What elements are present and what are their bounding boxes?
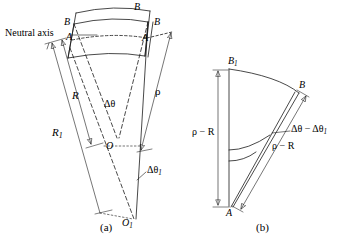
label-rho-minus-R-right: ρ − R <box>272 141 294 151</box>
label-B1: B1 <box>228 56 238 68</box>
angle-arc-secondary <box>229 152 256 161</box>
label-delta-theta-1: Δθ1 <box>147 165 162 177</box>
label-center-O1-subscript: 1 <box>129 222 133 230</box>
beam-right-face-rotated <box>148 22 153 57</box>
label-rho-minus-R-left: ρ − R <box>192 127 214 137</box>
label-angle-difference: Δθ − Δθ1 <box>291 124 327 136</box>
label-delta-theta: Δθ <box>104 99 115 109</box>
caption-panel-a: (a) <box>100 221 112 233</box>
label-angle-difference-base: Δθ − Δθ <box>291 123 324 134</box>
neutral-axis-label: Neutral axis <box>5 28 54 38</box>
beam-arc-B <box>74 19 148 24</box>
arc-B1-B <box>229 69 299 93</box>
radial-dashed-left-to-O <box>74 24 117 138</box>
dimension-line-rho-minus-R-right <box>241 96 306 209</box>
label-radius-R1: R1 <box>52 127 63 140</box>
label-B1-subscript: 1 <box>234 60 238 68</box>
dimension-ext-rho-bottom <box>137 149 152 152</box>
panel-a-drawing <box>45 8 172 219</box>
label-angle-difference-subscript: 1 <box>324 128 328 136</box>
dimension-ext-b-slant-bottom <box>232 206 243 212</box>
caption-panel-b: (b) <box>256 221 269 233</box>
label-B-top-left: B <box>64 17 70 27</box>
label-B-top-right: B <box>134 2 140 12</box>
neutral-axis-arc <box>72 35 147 40</box>
label-radius-R1-base: R <box>52 126 59 138</box>
radial-dashed-left-to-O1 <box>70 48 134 219</box>
label-A-left: A <box>66 32 72 42</box>
figure-container: Neutral axis B B B A A R R1 ρ Δθ Δθ1 O O… <box>0 0 341 242</box>
dimension-ext-bottom-R <box>95 210 112 214</box>
label-B-panel-b: B <box>299 80 305 90</box>
label-delta-theta-1-subscript: 1 <box>158 169 162 177</box>
label-center-O: O <box>106 141 113 151</box>
label-radius-R1-subscript: 1 <box>59 131 63 140</box>
beam-inner-arc <box>68 53 145 58</box>
dimension-tick-R <box>47 43 49 49</box>
label-radius-R: R <box>72 90 79 101</box>
panel-b-drawing <box>213 69 309 212</box>
label-B-outer-right: B <box>154 17 160 27</box>
label-A-panel-b: A <box>226 208 232 218</box>
label-delta-theta-1-base: Δθ <box>147 164 158 175</box>
radial-solid-right-to-O1 <box>136 22 148 219</box>
dimension-ext-bottom-R1 <box>86 143 103 148</box>
label-A-right: A <box>142 33 148 43</box>
label-center-O1: O1 <box>122 218 133 230</box>
label-rho: ρ <box>155 86 161 97</box>
angle-difference-leader <box>272 131 290 133</box>
